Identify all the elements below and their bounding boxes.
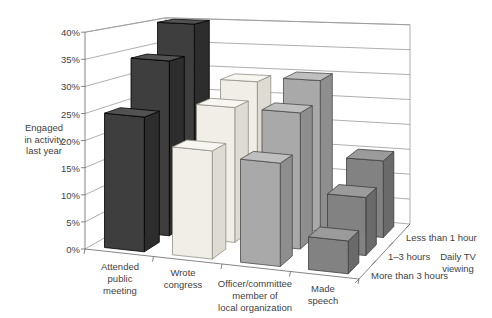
value-tick-label: 0% <box>50 244 80 256</box>
value-tick-label: 10% <box>50 190 80 202</box>
value-tick-label: 35% <box>50 54 80 66</box>
3d-bar-chart-figure: Engaged in activity last year 0% 5% 10% … <box>0 0 492 318</box>
value-axis-title-line: Engaged <box>13 122 75 134</box>
category-label-line: speech <box>273 295 373 307</box>
depth-label-1-3-hours: 1–3 hours <box>388 251 430 263</box>
value-tick-label: 40% <box>50 27 80 39</box>
category-label-made-speech: Made speech <box>273 283 373 307</box>
depth-axis-title-line: Daily TV <box>436 251 480 263</box>
value-tick-label: 20% <box>50 136 80 148</box>
depth-axis-title-line: viewing <box>436 263 480 275</box>
value-tick-label: 25% <box>50 109 80 121</box>
depth-label-less-than-1-hour: Less than 1 hour <box>406 232 477 244</box>
value-tick-label: 30% <box>50 81 80 93</box>
depth-axis-title: Daily TV viewing <box>436 251 480 274</box>
value-tick-label: 15% <box>50 163 80 175</box>
value-tick-label: 5% <box>50 217 80 229</box>
category-label-line: Made <box>273 283 373 295</box>
